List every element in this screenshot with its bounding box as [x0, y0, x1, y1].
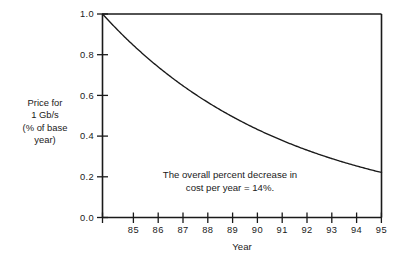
- x-tick-label-91: 91: [277, 225, 288, 235]
- chart-figure: 0.0 0.2 0.4 0.6 0.8 1.0 85 86 87: [0, 0, 399, 261]
- x-tick-label-90: 90: [252, 225, 263, 235]
- y-axis-title-line-3: (% of base: [6, 122, 84, 134]
- chart-annotation: The overall percent decrease in cost per…: [127, 168, 333, 194]
- x-tick-label-87: 87: [177, 225, 188, 235]
- x-tick-label-89: 89: [227, 225, 238, 235]
- x-tick-label-92: 92: [301, 225, 312, 235]
- y-tick-label-5: 1.0: [80, 9, 94, 19]
- x-tick-label-88: 88: [202, 225, 213, 235]
- y-tick-label-4: 0.8: [80, 50, 94, 60]
- y-tick-label-1: 0.2: [80, 172, 94, 182]
- x-tick-label-95: 95: [376, 225, 387, 235]
- y-axis-title-line-2: 1 Gb/s: [6, 109, 84, 121]
- x-axis-title: Year: [232, 241, 252, 252]
- chart-annotation-line-2: cost per year = 14%.: [127, 181, 333, 194]
- chart-annotation-line-1: The overall percent decrease in: [127, 168, 333, 181]
- y-axis-title-line-4: year): [6, 134, 84, 146]
- x-tick-label-86: 86: [153, 225, 164, 235]
- y-tick-label-0: 0.0: [80, 213, 94, 223]
- x-tick-label-94: 94: [351, 225, 362, 235]
- y-axis-title: Price for 1 Gb/s (% of base year): [6, 97, 84, 147]
- price-decay-curve: [103, 14, 382, 172]
- y-axis-title-line-1: Price for: [6, 97, 84, 109]
- x-tick-label-85: 85: [128, 225, 139, 235]
- x-tick-labels: 85 86 87 88 89 90 91 92 93 94 95: [128, 225, 387, 235]
- x-tick-label-93: 93: [326, 225, 337, 235]
